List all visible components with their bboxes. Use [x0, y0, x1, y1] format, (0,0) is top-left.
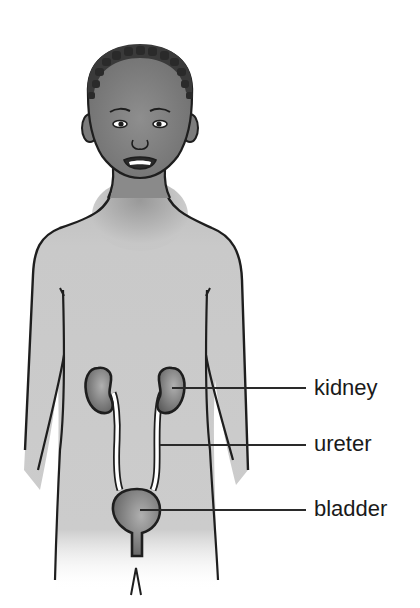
label-ureter: ureter	[314, 433, 371, 455]
head	[82, 44, 198, 198]
label-bladder: bladder	[314, 498, 387, 520]
urinary-system-diagram: kidney ureter bladder	[0, 0, 420, 608]
label-kidney: kidney	[314, 377, 378, 399]
